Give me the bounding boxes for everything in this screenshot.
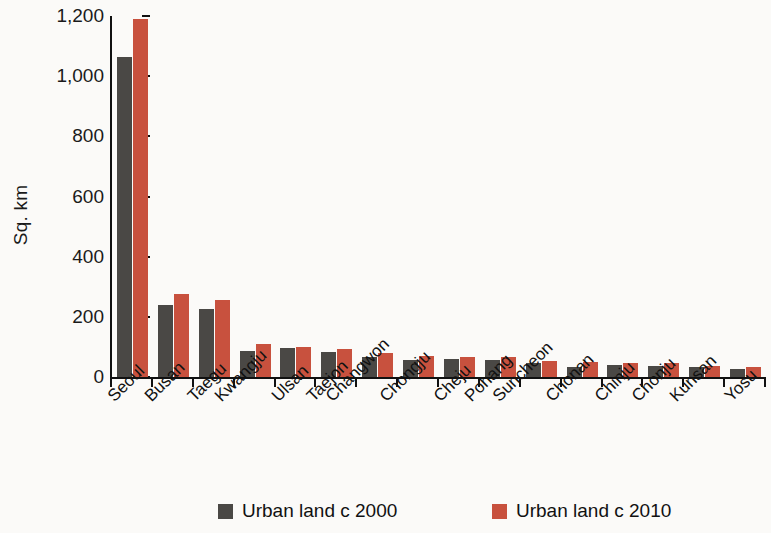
bar-chart: Sq. km 02004006008001,0001,200 SeoulBusa… — [0, 0, 771, 533]
y-axis-tick-label: 400 — [44, 246, 104, 268]
plot-area — [112, 16, 766, 377]
y-axis-tick-label: 1,000 — [44, 65, 104, 87]
legend-swatch-icon — [218, 504, 233, 519]
y-axis-tick-label: 800 — [44, 125, 104, 147]
legend-label: Urban land c 2000 — [242, 500, 397, 522]
x-axis-tick-mark — [723, 379, 725, 387]
bar — [117, 57, 132, 377]
y-axis-tick-label: 200 — [44, 306, 104, 328]
legend-label: Urban land c 2010 — [516, 500, 671, 522]
y-axis-tick-label: 0 — [44, 366, 104, 388]
y-axis-title-text: Sq. km — [10, 185, 32, 245]
legend-item[interactable]: Urban land c 2010 — [492, 500, 671, 522]
y-axis-tick-label: 600 — [44, 186, 104, 208]
y-axis-title: Sq. km — [4, 160, 38, 270]
x-axis-labels: SeoulBusanTaeguKwangjuUlsanTaejonChangwo… — [0, 390, 771, 500]
x-axis-tick-mark — [764, 379, 766, 387]
chart-legend: Urban land c 2000Urban land c 2010 — [0, 500, 771, 533]
bar — [133, 19, 148, 377]
legend-swatch-icon — [492, 504, 507, 519]
y-axis-tick-label: 1,200 — [44, 5, 104, 27]
legend-item[interactable]: Urban land c 2000 — [218, 500, 397, 522]
